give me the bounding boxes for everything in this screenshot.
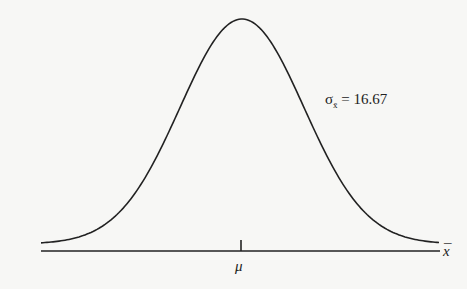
std-error-value: = 16.67	[338, 91, 388, 107]
normal-curve-plot	[0, 0, 467, 289]
std-error-annotation: σx̄ = 16.67	[325, 91, 387, 108]
x-axis-label: ¯x	[443, 243, 450, 260]
mean-label: μ	[235, 258, 243, 275]
bell-curve	[41, 19, 439, 243]
xbar-overline: ¯	[444, 241, 452, 258]
sigma-subscript: x̄	[333, 100, 338, 110]
sigma-symbol: σ	[325, 91, 333, 107]
